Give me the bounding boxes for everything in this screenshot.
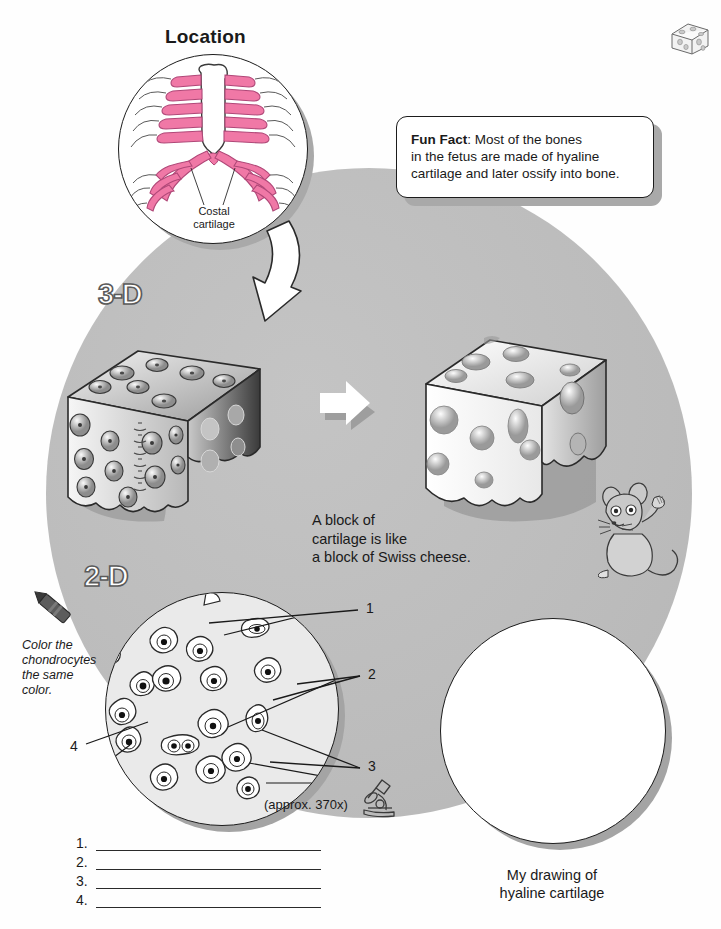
cheese-caption-line1: A block of	[312, 511, 471, 530]
location-title: Location	[165, 26, 246, 48]
micrograph-circle	[105, 592, 339, 826]
drawing-circle[interactable]	[440, 618, 666, 844]
mouse-figure	[598, 478, 684, 587]
color-note-line4: color.	[22, 683, 108, 698]
answer-line-2[interactable]: 2.	[76, 851, 321, 870]
answer-number-2: 2.	[76, 854, 94, 870]
answer-rule-2[interactable]	[96, 857, 321, 870]
cheese-analogy-caption: A block of cartilage is like a block of …	[312, 511, 471, 567]
two-d-label: 2-D	[84, 560, 128, 593]
answer-line-1[interactable]: 1.	[76, 832, 321, 851]
answer-rule-1[interactable]	[96, 838, 321, 851]
color-instruction-note: Color the chondrocytes the same color.	[22, 638, 108, 698]
cheese-caption-line3: a block of Swiss cheese.	[312, 548, 471, 567]
answer-line-4[interactable]: 4.	[76, 889, 321, 908]
three-d-label: 3-D	[98, 278, 142, 311]
fun-fact-line1-rest: : Most of the bones	[467, 132, 582, 147]
answer-line-3[interactable]: 3.	[76, 870, 321, 889]
drawing-caption: My drawing of hyaline cartilage	[440, 866, 664, 902]
crayon-icon	[26, 585, 84, 639]
fun-fact-label: Fun Fact	[411, 132, 467, 147]
answer-rule-4[interactable]	[96, 895, 321, 908]
fun-fact-line2: in the fetus are made of hyaline	[411, 148, 641, 165]
magnification-label: (approx. 370x)	[264, 797, 348, 812]
answer-number-3: 3.	[76, 873, 94, 889]
answer-lines: 1. 2. 3. 4.	[76, 832, 321, 908]
fun-fact-line3: cartilage and later ossify into bone.	[411, 165, 641, 182]
micrograph-leader-4: 4	[70, 738, 78, 754]
fun-fact-line1: Fun Fact: Most of the bones	[411, 131, 641, 148]
color-note-line1: Color the	[22, 638, 108, 653]
chondrocyte-field	[106, 593, 338, 825]
curved-arrow-icon	[205, 215, 315, 334]
micrograph-leader-1: 1	[366, 600, 374, 616]
swiss-cheese-block-thumbnail-icon	[668, 20, 712, 62]
color-note-line2: chondrocytes	[22, 653, 108, 668]
right-arrow-icon	[312, 375, 376, 435]
fun-fact-box: Fun Fact: Most of the bones in the fetus…	[396, 116, 654, 198]
drawing-caption-line1: My drawing of	[440, 866, 664, 884]
answer-rule-3[interactable]	[96, 876, 321, 889]
answer-number-4: 4.	[76, 892, 94, 908]
cheese-caption-line2: cartilage is like	[312, 530, 471, 549]
worksheet-page: Location	[0, 0, 721, 929]
drawing-caption-line2: hyaline cartilage	[440, 884, 664, 902]
micrograph-leader-3: 3	[368, 758, 376, 774]
microscope-icon	[358, 776, 404, 824]
micrograph-leader-2: 2	[368, 666, 376, 682]
color-note-line3: the same	[22, 668, 108, 683]
answer-number-1: 1.	[76, 835, 94, 851]
cartilage-block-figure	[60, 325, 310, 534]
